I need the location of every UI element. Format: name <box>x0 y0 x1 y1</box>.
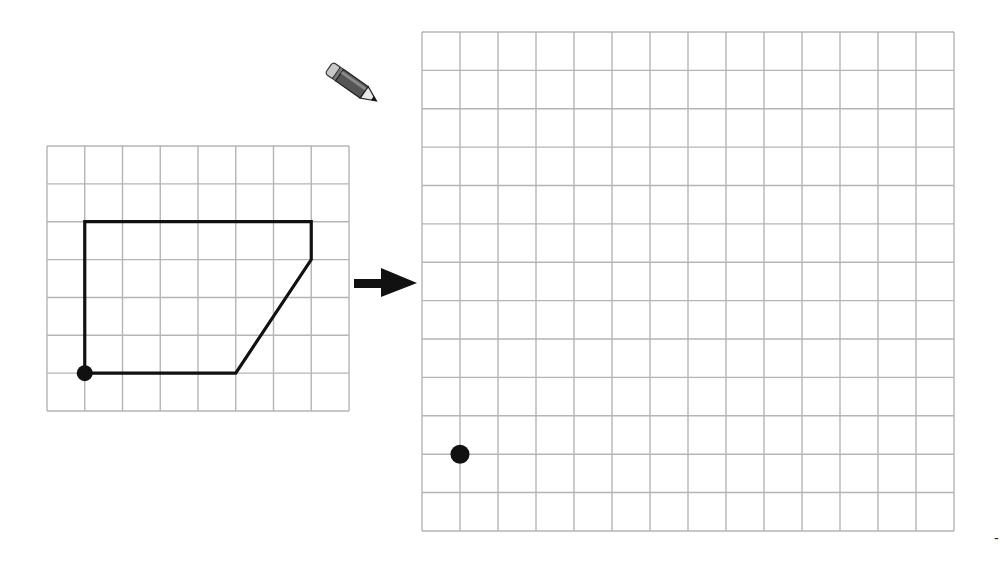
original-shape <box>77 222 312 381</box>
corner-mark: - <box>994 530 999 546</box>
enlargement-start-dot <box>451 445 470 464</box>
arrow-right-icon <box>354 268 417 297</box>
diagram-canvas: - <box>0 0 1000 567</box>
pencil-icon <box>325 62 381 107</box>
large-grid <box>422 32 954 531</box>
